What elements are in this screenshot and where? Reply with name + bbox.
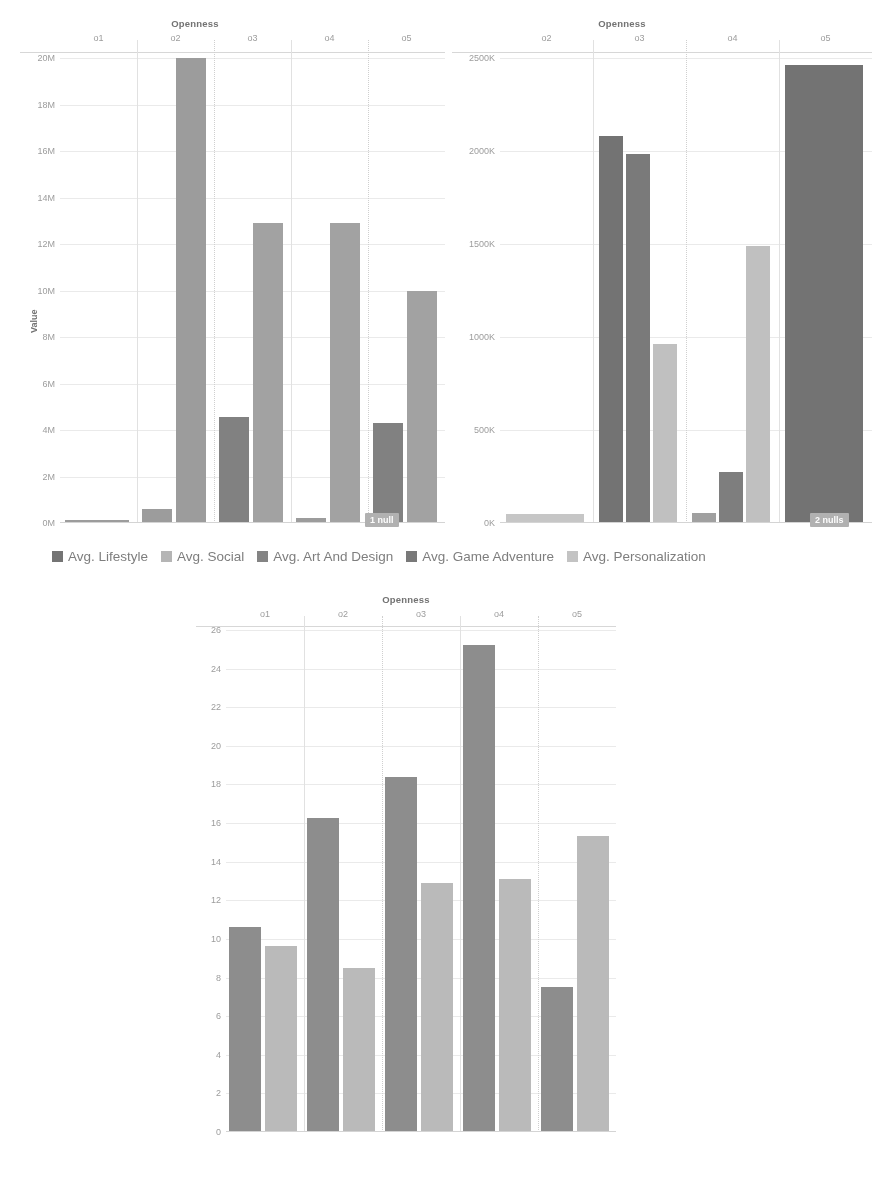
- category-divider: [291, 40, 292, 523]
- y-tick-label: 12M: [37, 239, 55, 249]
- legend-item-label: Avg. Game Adventure: [422, 549, 554, 564]
- bar[interactable]: [265, 946, 297, 1132]
- y-tick-label: 10M: [37, 286, 55, 296]
- legend-item[interactable]: Avg. Personalization: [567, 549, 706, 564]
- x-tick-label: o2: [170, 33, 180, 43]
- x-tick-label: o1: [260, 609, 270, 619]
- chart-top-right-panel: Openness o2o3o4o5 2500K2000K1500K1000K50…: [452, 18, 872, 538]
- x-tick-label: o1: [93, 33, 103, 43]
- y-tick-label: 16: [211, 818, 221, 828]
- gridline: [226, 862, 616, 863]
- bar[interactable]: [463, 645, 495, 1132]
- legend-item[interactable]: Avg. Art And Design: [257, 549, 393, 564]
- bar[interactable]: [421, 883, 453, 1132]
- legend-item-label: Avg. Social: [177, 549, 244, 564]
- y-tick-label: 1500K: [469, 239, 495, 249]
- bar[interactable]: [385, 777, 417, 1132]
- gridline: [60, 105, 445, 106]
- legend-item[interactable]: Avg. Lifestyle: [52, 549, 148, 564]
- x-tick-label: o2: [338, 609, 348, 619]
- y-tick-label: 2000K: [469, 146, 495, 156]
- y-tick-label: 10: [211, 934, 221, 944]
- x-tick-label: o4: [494, 609, 504, 619]
- x-tick-label: o4: [727, 33, 737, 43]
- x-tick-label: o5: [820, 33, 830, 43]
- y-tick-label: 14M: [37, 193, 55, 203]
- chart-top-right-title: Openness: [542, 18, 702, 29]
- legend-item[interactable]: Avg. Game Adventure: [406, 549, 554, 564]
- gridline: [226, 630, 616, 631]
- y-tick-label: 20: [211, 741, 221, 751]
- chart-top-right-plot: [500, 58, 872, 523]
- category-divider: [304, 616, 305, 1132]
- x-tick-label: o3: [416, 609, 426, 619]
- x-tick-label: o5: [401, 33, 411, 43]
- gridline: [226, 784, 616, 785]
- legend-item[interactable]: Avg. Social: [161, 549, 244, 564]
- bar[interactable]: [142, 509, 172, 523]
- y-tick-label: 2: [216, 1088, 221, 1098]
- legend-swatch-icon: [257, 551, 268, 562]
- y-tick-label: 0M: [42, 518, 55, 528]
- bar[interactable]: [599, 136, 623, 523]
- chart-legend: Avg. LifestyleAvg. SocialAvg. Art And De…: [52, 549, 706, 564]
- chart-bottom-header-rule: [196, 626, 616, 627]
- bar[interactable]: [407, 291, 437, 524]
- bar[interactable]: [229, 927, 261, 1132]
- category-divider: [460, 616, 461, 1132]
- category-divider: [368, 40, 370, 523]
- chart-top-right-header-rule: [452, 52, 872, 53]
- y-tick-label: 500K: [474, 425, 495, 435]
- y-tick-label: 20M: [37, 53, 55, 63]
- y-tick-label: 4M: [42, 425, 55, 435]
- y-tick-label: 24: [211, 664, 221, 674]
- bar[interactable]: [499, 879, 531, 1132]
- chart-top-right-column-header: Openness: [452, 18, 872, 52]
- legend-swatch-icon: [161, 551, 172, 562]
- y-tick-label: 4: [216, 1050, 221, 1060]
- gridline: [60, 58, 445, 59]
- category-divider: [593, 40, 594, 523]
- chart-top-left-plot: [60, 58, 445, 523]
- y-tick-label: 2M: [42, 472, 55, 482]
- y-tick-label: 2500K: [469, 53, 495, 63]
- x-tick-label: o3: [247, 33, 257, 43]
- y-tick-label: 12: [211, 895, 221, 905]
- chart-top-left-title: Openness: [115, 18, 275, 29]
- bar[interactable]: [626, 154, 650, 523]
- bar[interactable]: [746, 246, 770, 523]
- legend-swatch-icon: [406, 551, 417, 562]
- bar[interactable]: [373, 423, 403, 523]
- bar[interactable]: [219, 417, 249, 523]
- y-tick-label: 14: [211, 857, 221, 867]
- gridline: [60, 151, 445, 152]
- chart-bottom-title: Openness: [326, 594, 486, 605]
- chart-top-left-header-rule: [20, 52, 445, 53]
- bar[interactable]: [343, 968, 375, 1132]
- category-divider: [538, 616, 540, 1132]
- category-divider: [137, 40, 138, 523]
- bar[interactable]: [577, 836, 609, 1132]
- bar[interactable]: [307, 818, 339, 1132]
- bar[interactable]: [176, 58, 206, 523]
- y-tick-label: 16M: [37, 146, 55, 156]
- gridline: [226, 669, 616, 670]
- chart-top-left-null-badge: 1 null: [365, 513, 399, 527]
- bar[interactable]: [653, 344, 677, 523]
- chart-bottom-panel: Openness o1o2o3o4o5 26242220181614121086…: [196, 594, 616, 1174]
- bar[interactable]: [253, 223, 283, 523]
- chart-top-left-column-header: Openness: [20, 18, 445, 52]
- bar[interactable]: [541, 987, 573, 1132]
- bar[interactable]: [719, 472, 743, 523]
- bar[interactable]: [330, 223, 360, 523]
- chart-bottom-baseline: [226, 1131, 616, 1132]
- legend-item-label: Avg. Art And Design: [273, 549, 393, 564]
- bar[interactable]: [785, 65, 864, 523]
- y-tick-label: 18M: [37, 100, 55, 110]
- legend-item-label: Avg. Personalization: [583, 549, 706, 564]
- category-divider: [382, 616, 384, 1132]
- legend-item-label: Avg. Lifestyle: [68, 549, 148, 564]
- y-tick-label: 0K: [484, 518, 495, 528]
- y-tick-label: 26: [211, 625, 221, 635]
- chart-top-right-null-badge: 2 nulls: [810, 513, 849, 527]
